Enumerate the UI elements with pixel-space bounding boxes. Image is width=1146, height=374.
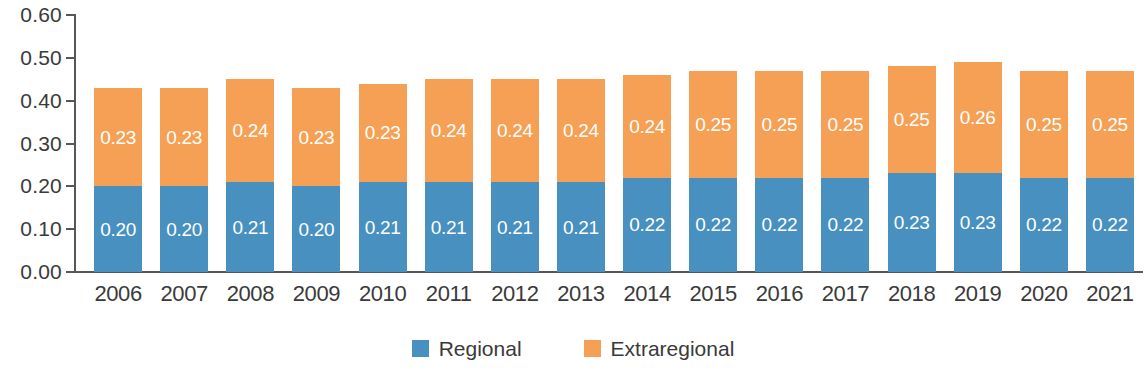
x-axis-tick-label: 2015	[680, 282, 746, 306]
bar-segment-regional[interactable]: 0.22	[1020, 178, 1068, 272]
bar-group[interactable]: 0.200.23	[94, 15, 142, 272]
bar-value-label: 0.25	[828, 115, 864, 134]
x-axis-tick-label: 2020	[1011, 282, 1077, 306]
bar-segment-extraregional[interactable]: 0.26	[954, 62, 1002, 173]
bar-segment-extraregional[interactable]: 0.24	[491, 79, 539, 182]
legend-item[interactable]: Regional	[412, 338, 522, 359]
x-axis-tick-label: 2017	[812, 282, 878, 306]
bar-segment-extraregional[interactable]: 0.23	[292, 88, 340, 187]
y-axis-tick-label: 0.40	[0, 90, 62, 111]
x-axis-tick-label: 2018	[879, 282, 945, 306]
bar-group[interactable]: 0.220.25	[1020, 15, 1068, 272]
bar-segment-regional[interactable]: 0.21	[226, 182, 274, 272]
bar-segment-extraregional[interactable]: 0.24	[425, 79, 473, 182]
bar-value-label: 0.22	[761, 215, 797, 234]
x-axis-tick-label: 2011	[416, 282, 482, 306]
x-axis-tick-label: 2006	[85, 282, 151, 306]
bar-segment-regional[interactable]: 0.20	[160, 186, 208, 272]
bar-value-label: 0.25	[1092, 115, 1128, 134]
bar-group[interactable]: 0.210.24	[226, 15, 274, 272]
bar-value-label: 0.22	[695, 215, 731, 234]
bar-segment-extraregional[interactable]: 0.23	[94, 88, 142, 187]
bar-group[interactable]: 0.220.24	[623, 15, 671, 272]
legend-swatch-icon	[412, 340, 429, 357]
bar-segment-extraregional[interactable]: 0.25	[755, 71, 803, 178]
legend-label: Extraregional	[611, 338, 735, 359]
bar-segment-extraregional[interactable]: 0.25	[689, 71, 737, 178]
x-axis-tick-label: 2007	[151, 282, 217, 306]
x-axis-tick-label: 2008	[217, 282, 283, 306]
bar-value-label: 0.20	[299, 220, 335, 239]
bar-segment-regional[interactable]: 0.22	[821, 178, 869, 272]
bar-group[interactable]: 0.220.25	[1086, 15, 1134, 272]
chart-legend: RegionalExtraregional	[0, 338, 1146, 359]
bar-segment-regional[interactable]: 0.22	[689, 178, 737, 272]
bar-group[interactable]: 0.200.23	[160, 15, 208, 272]
bar-group[interactable]: 0.210.24	[425, 15, 473, 272]
bar-value-label: 0.24	[431, 121, 467, 140]
bar-value-label: 0.20	[100, 220, 136, 239]
bar-segment-extraregional[interactable]: 0.25	[821, 71, 869, 178]
bar-value-label: 0.23	[100, 128, 136, 147]
bar-value-label: 0.22	[1026, 215, 1062, 234]
bar-segment-extraregional[interactable]: 0.24	[226, 79, 274, 182]
bar-segment-regional[interactable]: 0.21	[557, 182, 605, 272]
bar-segment-regional[interactable]: 0.21	[425, 182, 473, 272]
bar-group[interactable]: 0.220.25	[821, 15, 869, 272]
bar-group[interactable]: 0.210.24	[491, 15, 539, 272]
bar-value-label: 0.24	[232, 121, 268, 140]
bar-value-label: 0.21	[497, 218, 533, 237]
bar-value-label: 0.23	[299, 128, 335, 147]
bar-value-label: 0.25	[894, 110, 930, 129]
x-axis-tick-label: 2012	[482, 282, 548, 306]
bar-group[interactable]: 0.230.26	[954, 15, 1002, 272]
x-axis-tick-label: 2021	[1077, 282, 1143, 306]
bar-segment-regional[interactable]: 0.21	[491, 182, 539, 272]
bar-segment-regional[interactable]: 0.21	[359, 182, 407, 272]
bar-segment-regional[interactable]: 0.23	[954, 173, 1002, 272]
bar-segment-extraregional[interactable]: 0.25	[888, 66, 936, 173]
bar-segment-regional[interactable]: 0.22	[755, 178, 803, 272]
bar-value-label: 0.23	[894, 213, 930, 232]
bar-value-label: 0.26	[960, 108, 996, 127]
x-axis-tick-label: 2009	[283, 282, 349, 306]
bar-segment-extraregional[interactable]: 0.24	[557, 79, 605, 182]
bar-value-label: 0.22	[828, 215, 864, 234]
bar-segment-extraregional[interactable]: 0.25	[1086, 71, 1134, 178]
y-axis-tick-label: 0.60	[0, 4, 62, 25]
bar-group[interactable]: 0.200.23	[292, 15, 340, 272]
bar-segment-regional[interactable]: 0.23	[888, 173, 936, 272]
bar-segment-regional[interactable]: 0.22	[1086, 178, 1134, 272]
bar-segment-regional[interactable]: 0.20	[292, 186, 340, 272]
bar-group[interactable]: 0.220.25	[755, 15, 803, 272]
bar-group[interactable]: 0.220.25	[689, 15, 737, 272]
y-axis-tick-label: 0.50	[0, 47, 62, 68]
bar-value-label: 0.24	[629, 117, 665, 136]
bar-value-label: 0.25	[761, 115, 797, 134]
x-axis-tick-label: 2010	[350, 282, 416, 306]
bar-segment-extraregional[interactable]: 0.23	[160, 88, 208, 187]
bar-segment-regional[interactable]: 0.20	[94, 186, 142, 272]
bar-value-label: 0.24	[497, 121, 533, 140]
bar-value-label: 0.23	[960, 213, 996, 232]
y-axis-tick-label: 0.30	[0, 133, 62, 154]
bar-segment-extraregional[interactable]: 0.25	[1020, 71, 1068, 178]
y-axis-tick-label: 0.20	[0, 175, 62, 196]
bar-value-label: 0.21	[365, 218, 401, 237]
bar-segment-regional[interactable]: 0.22	[623, 178, 671, 272]
bar-segment-extraregional[interactable]: 0.23	[359, 84, 407, 183]
stacked-bar-chart: 0.600.500.400.300.200.100.00 0.200.230.2…	[0, 0, 1146, 374]
bar-value-label: 0.21	[563, 218, 599, 237]
plot-area: 0.200.230.200.230.210.240.200.230.210.23…	[74, 15, 1146, 272]
bar-group[interactable]: 0.230.25	[888, 15, 936, 272]
bar-group[interactable]: 0.210.23	[359, 15, 407, 272]
x-axis-tick-label: 2013	[548, 282, 614, 306]
bar-value-label: 0.23	[365, 123, 401, 142]
legend-item[interactable]: Extraregional	[584, 338, 735, 359]
bar-group[interactable]: 0.210.24	[557, 15, 605, 272]
bar-segment-extraregional[interactable]: 0.24	[623, 75, 671, 178]
y-axis-tick-label: 0.00	[0, 261, 62, 282]
bar-value-label: 0.25	[695, 115, 731, 134]
x-axis-tick-label: 2016	[746, 282, 812, 306]
bar-value-label: 0.24	[563, 121, 599, 140]
